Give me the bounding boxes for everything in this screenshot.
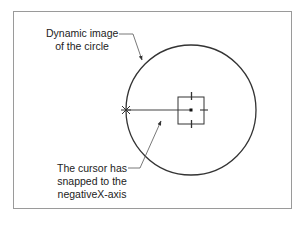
annotation-line: Dynamic image [46,27,118,40]
annotation-dynamic-image: Dynamic image of the circle [46,27,118,53]
leader-cursor-snap [128,121,161,168]
annotation-line: The cursor has [56,162,128,175]
leader-dynamic-image [119,34,142,60]
annotation-cursor-snap: The cursor has snapped to the negativeX-… [56,162,128,201]
annotation-line: negativeX-axis [56,188,128,201]
annotation-line: of the circle [46,40,118,53]
annotation-line: snapped to the [56,175,128,188]
